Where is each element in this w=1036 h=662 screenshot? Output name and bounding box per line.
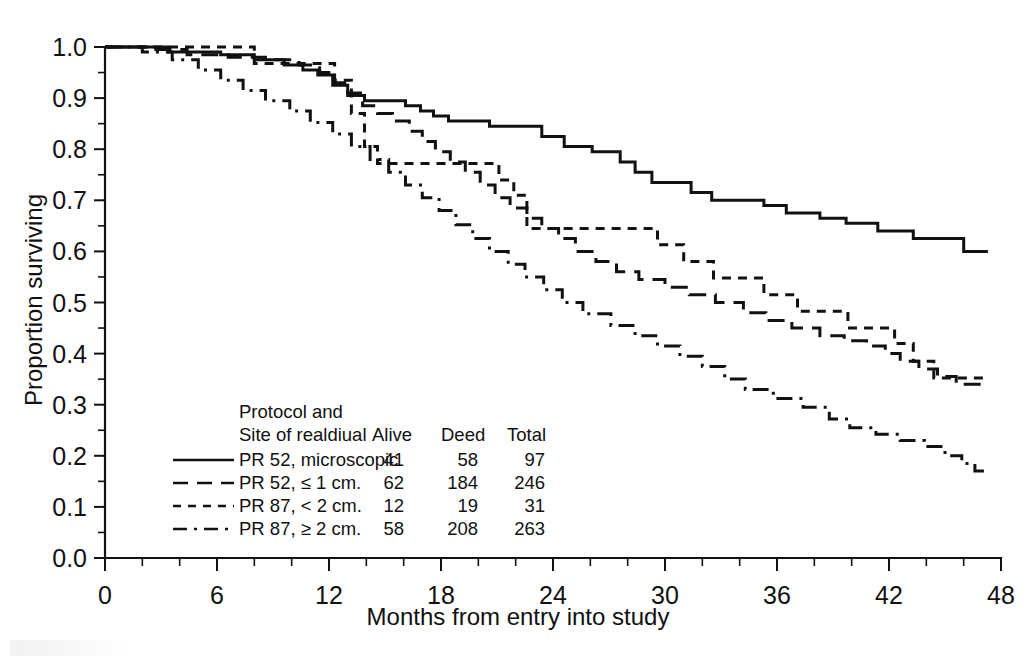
legend-dead-1: 184	[447, 472, 478, 493]
kaplan-meier-plot: 0.00.10.20.30.40.50.60.70.80.91.0 061218…	[0, 0, 1036, 662]
y-tick-label: 0.0	[52, 544, 87, 572]
legend-header-line2: Site of realdiual	[239, 424, 367, 445]
y-tick-label: 1.0	[52, 33, 87, 61]
survival-curve-0	[105, 47, 988, 251]
y-axis-tick-labels: 0.00.10.20.30.40.50.60.70.80.91.0	[52, 33, 87, 572]
legend-header-line1: Protocol and	[239, 401, 343, 422]
y-tick-label: 0.4	[52, 340, 87, 368]
survival-curve-1	[105, 47, 988, 384]
legend-column-dead: Deed	[441, 424, 485, 445]
y-tick-label: 0.7	[52, 186, 87, 214]
x-tick-label: 36	[763, 581, 791, 609]
y-tick-label: 0.3	[52, 391, 87, 419]
legend-label-1: PR 52, ≤ 1 cm.	[239, 472, 361, 493]
x-tick-label: 6	[210, 581, 224, 609]
legend-total-0: 97	[524, 449, 545, 470]
legend-total-2: 31	[524, 495, 545, 516]
legend-column-alive: Alive	[372, 424, 412, 445]
survival-curve-3	[105, 47, 990, 471]
y-axis-ticks	[94, 47, 105, 558]
legend-rows: PR 52, microscopic415897PR 52, ≤ 1 cm.62…	[173, 449, 545, 539]
legend-dead-3: 208	[447, 518, 478, 539]
legend-alive-1: 62	[383, 472, 404, 493]
legend: Protocol and Site of realdiual Alive Dee…	[173, 401, 546, 539]
x-tick-label: 42	[875, 581, 903, 609]
x-axis-ticks	[105, 558, 1001, 571]
survival-curves	[105, 47, 990, 471]
legend-label-0: PR 52, microscopic	[239, 449, 398, 470]
legend-column-total: Total	[507, 424, 546, 445]
legend-total-1: 246	[514, 472, 545, 493]
x-tick-label: 0	[98, 581, 112, 609]
y-tick-label: 0.5	[52, 289, 87, 317]
legend-label-3: PR 87, ≥ 2 cm.	[239, 518, 361, 539]
y-tick-label: 0.9	[52, 84, 87, 112]
survival-curve-2	[105, 47, 988, 378]
y-tick-label: 0.6	[52, 237, 87, 265]
x-axis-title: Months from entry into study	[367, 603, 670, 630]
x-tick-label: 48	[987, 581, 1015, 609]
y-tick-label: 0.1	[52, 493, 87, 521]
y-axis-title: Proportion surviving	[20, 194, 47, 406]
legend-alive-3: 58	[383, 518, 404, 539]
legend-dead-0: 58	[457, 449, 478, 470]
y-tick-label: 0.2	[52, 442, 87, 470]
legend-label-2: PR 87, < 2 cm.	[239, 495, 362, 516]
legend-alive-0: 41	[383, 449, 404, 470]
y-tick-label: 0.8	[52, 135, 87, 163]
legend-alive-2: 12	[383, 495, 404, 516]
legend-dead-2: 19	[457, 495, 478, 516]
survival-chart-figure: 0.00.10.20.30.40.50.60.70.80.91.0 061218…	[0, 0, 1036, 662]
legend-total-3: 263	[514, 518, 545, 539]
x-tick-label: 12	[315, 581, 343, 609]
